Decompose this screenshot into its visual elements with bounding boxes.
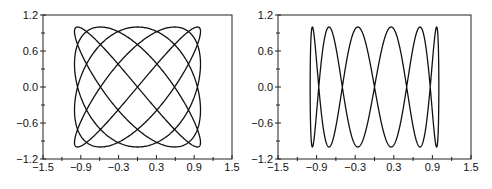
x-tick-label: −0.9: [70, 161, 92, 173]
x-tick-label: 0.3: [386, 161, 401, 173]
x-tick-label: 0.9: [187, 161, 202, 173]
y-tick-label: −0.6: [16, 117, 38, 129]
x-tick-label: 1.5: [463, 161, 478, 173]
x-tick-label: −0.3: [108, 161, 130, 173]
y-tick-label: 0.6: [258, 45, 273, 57]
x-tick-label: 0.3: [149, 161, 164, 173]
y-tick-label: −1.2: [16, 153, 38, 165]
x-tick-label: 0.9: [425, 161, 440, 173]
x-tick-label: 1.5: [224, 161, 239, 173]
x-tick-label: −0.3: [344, 161, 366, 173]
y-tick-label: −1.2: [251, 153, 273, 165]
y-tick-label: 0.6: [23, 45, 38, 57]
y-tick-label: −0.6: [251, 117, 273, 129]
lissajous-curve: [75, 27, 201, 147]
y-tick-label: 1.2: [23, 9, 38, 21]
left-lissajous-plot: −1.5−0.9−0.30.30.91.5−1.2−0.60.00.61.2: [16, 9, 239, 173]
y-tick-label: 0.0: [23, 81, 38, 93]
y-tick-label: 0.0: [258, 81, 273, 93]
right-lissajous-plot: −1.5−0.9−0.30.30.91.5−1.2−0.60.00.61.2: [251, 9, 478, 173]
figure: −1.5−0.9−0.30.30.91.5−1.2−0.60.00.61.2 −…: [0, 0, 492, 189]
lissajous-curve: [310, 27, 439, 147]
y-tick-label: 1.2: [258, 9, 273, 21]
x-tick-label: −0.9: [306, 161, 328, 173]
